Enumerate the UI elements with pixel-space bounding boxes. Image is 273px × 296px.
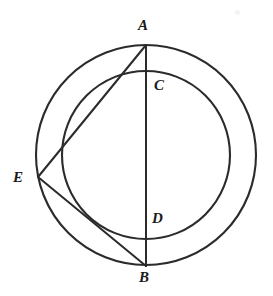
vertex-label-b: B [139, 270, 149, 285]
segment-EB [38, 177, 146, 266]
vertex-label-d: D [152, 211, 163, 226]
geometry-figure: A C E D B [0, 0, 273, 296]
geometry-canvas [0, 0, 273, 296]
vertex-label-a: A [138, 18, 148, 33]
vertex-label-e: E [13, 170, 23, 185]
segment-AE [38, 45, 146, 177]
vertex-label-c: C [154, 78, 164, 93]
scan-smudge [235, 10, 240, 15]
